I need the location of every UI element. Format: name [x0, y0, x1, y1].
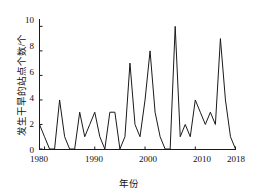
- y-tick-label-0: 0: [8, 145, 34, 155]
- drought-station-count-chart: 发生干旱的站点个数/个 年份 10 8 6 4 2 0 1980 1990 20…: [0, 0, 258, 195]
- y-axis-label: 发生干旱的站点个数/个: [14, 25, 28, 145]
- x-axis-label: 年份: [0, 176, 258, 190]
- y-tick-label-10: 10: [8, 15, 34, 25]
- x-tick-label-2000: 2000: [128, 154, 168, 164]
- x-tick-label-1990: 1990: [74, 154, 114, 164]
- x-tick-label-1980: 1980: [19, 154, 59, 164]
- x-tick-label-2018: 2018: [216, 154, 256, 164]
- x-tick-label-2010: 2010: [182, 154, 222, 164]
- drought-count-line: [40, 26, 236, 149]
- plot-area: [39, 19, 236, 150]
